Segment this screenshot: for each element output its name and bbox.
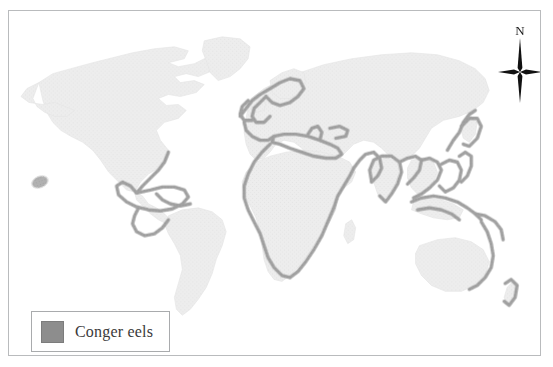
legend-label-conger-eels: Conger eels [75,323,153,341]
map-frame: N Conger eels [8,10,541,356]
land-south-america [164,208,226,315]
land-eurasia [244,53,489,168]
compass-rose: N [498,23,541,103]
legend-swatch-conger-eels [41,321,64,343]
map-legend: Conger eels [31,311,170,352]
compass-rose-icon [498,38,541,103]
compass-north-label: N [498,23,541,38]
landmass-layer [21,37,517,315]
land-africa [242,150,356,281]
range-south-china-sea [439,160,461,192]
land-greenland [202,37,250,81]
land-north-america [39,47,232,192]
figure-container: N Conger eels [0,0,553,367]
land-madagascar [344,220,356,244]
world-map-graphic [9,11,540,355]
